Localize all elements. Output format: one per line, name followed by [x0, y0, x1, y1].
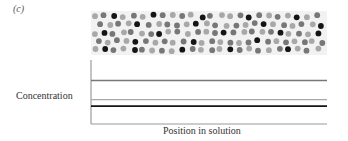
y-axis-label: Concentration [16, 90, 73, 101]
concentration-lines [91, 81, 327, 107]
x-axis-label: Position in solution [163, 125, 241, 136]
concentration-plot [0, 0, 348, 141]
